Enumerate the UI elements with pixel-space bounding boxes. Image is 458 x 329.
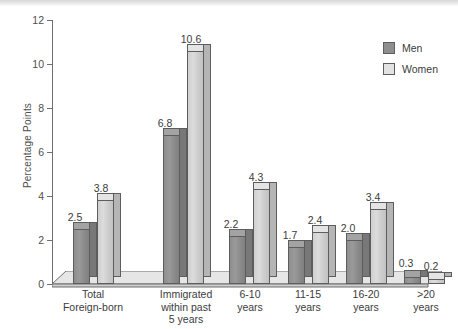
bar-men-11-15-years <box>288 247 305 284</box>
bar-top-face <box>288 240 305 247</box>
bar-top-face <box>163 128 180 135</box>
bar-side-face <box>114 193 121 277</box>
bar-side-face <box>445 272 452 277</box>
legend-swatch-women-icon <box>383 63 395 75</box>
bar-top-face <box>229 229 246 236</box>
legend-swatch-men-icon <box>383 42 395 54</box>
bar-front-face <box>163 135 180 284</box>
bar-top-face <box>312 225 329 232</box>
grouped-bar-chart: Percentage Points 12 10 8 6 4 2 0 <box>0 0 458 329</box>
y-tick-label-4: 4 <box>0 191 44 201</box>
bar-front-face <box>253 189 270 284</box>
bar-side-face <box>363 233 370 277</box>
legend-label-men: Men <box>402 43 422 54</box>
y-tick-2 <box>47 240 53 241</box>
y-tick-label-2: 2 <box>0 235 44 245</box>
bar-top-face <box>97 193 114 200</box>
value-label-women-2: 4.3 <box>239 172 273 183</box>
bar-women-immigrated-5yr <box>187 51 204 284</box>
value-label-men-3: 1.7 <box>273 230 307 241</box>
bar-front-face <box>428 279 445 284</box>
bar-front-face <box>229 236 246 284</box>
category-line-1: >20 <box>381 288 458 301</box>
bar-front-face <box>288 247 305 284</box>
y-tick-12 <box>47 20 53 21</box>
value-label-women-3: 2.4 <box>298 215 332 226</box>
y-tick-8 <box>47 108 53 109</box>
value-label-men-4: 2.0 <box>331 223 365 234</box>
bar-side-face <box>246 229 253 277</box>
value-label-women-1: 10.6 <box>172 34 210 45</box>
value-label-women-4: 3.4 <box>356 192 390 203</box>
bar-side-face <box>180 128 187 277</box>
bar-side-face <box>305 240 312 277</box>
bar-top-face <box>253 182 270 189</box>
legend-item-women: Women <box>383 63 438 75</box>
bar-top-face <box>73 222 90 229</box>
bar-women-over-20-years <box>428 279 445 284</box>
bar-front-face <box>97 200 114 284</box>
y-tick-label-6: 6 <box>0 147 44 157</box>
value-label-women-5: 0.2 <box>414 261 448 272</box>
bar-front-face <box>73 229 90 284</box>
bar-side-face <box>204 44 211 277</box>
value-label-women-0: 3.8 <box>84 183 118 194</box>
y-tick-10 <box>47 64 53 65</box>
y-tick-label-8: 8 <box>0 103 44 113</box>
y-tick-label-10: 10 <box>0 59 44 69</box>
bar-men-immigrated-5yr <box>163 135 180 284</box>
bar-front-face <box>312 232 329 284</box>
y-tick-4 <box>47 196 53 197</box>
bar-top-face <box>346 233 363 240</box>
value-label-men-2: 2.2 <box>214 219 248 230</box>
bar-top-face <box>428 272 445 279</box>
bar-women-6-10-years <box>253 189 270 284</box>
legend-item-men: Men <box>383 42 438 54</box>
legend-label-women: Women <box>402 64 438 75</box>
category-label-over-20-years: >20 years <box>381 288 458 313</box>
category-line-3: 5 years <box>131 313 241 326</box>
bar-front-face <box>187 51 204 284</box>
bar-men-total-foreign-born <box>73 229 90 284</box>
bar-top-face <box>370 202 387 209</box>
bar-women-16-20-years <box>370 209 387 284</box>
chart-legend: Men Women <box>383 42 438 84</box>
bar-front-face <box>370 209 387 284</box>
bar-women-total-foreign-born <box>97 200 114 284</box>
bar-side-face <box>90 222 97 277</box>
value-label-men-1: 6.8 <box>148 118 182 129</box>
bar-women-11-15-years <box>312 232 329 284</box>
bar-men-6-10-years <box>229 236 246 284</box>
value-label-men-0: 2.5 <box>58 212 92 223</box>
bar-men-16-20-years <box>346 240 363 284</box>
y-tick-6 <box>47 152 53 153</box>
bar-front-face <box>346 240 363 284</box>
bar-men-over-20-years <box>404 277 421 284</box>
category-line-2: years <box>381 301 458 314</box>
y-tick-label-12: 12 <box>0 15 44 25</box>
bar-top-face <box>187 44 204 51</box>
bar-front-face <box>404 277 421 284</box>
